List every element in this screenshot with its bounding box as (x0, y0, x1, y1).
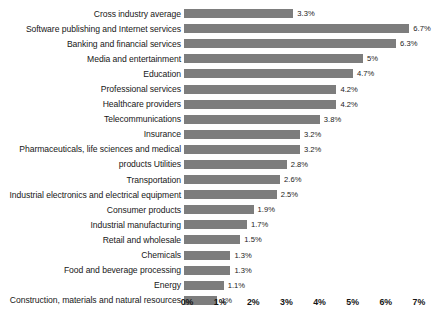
category-label: Software publishing and Internet service… (0, 24, 184, 34)
bar-value-label: 4.2% (340, 85, 357, 94)
chart-row: Retail and wholesale1.5% (0, 232, 445, 247)
category-label: Healthcare providers (0, 99, 184, 109)
bar-track: 1.3% (184, 263, 445, 278)
x-axis-tick-label: 1% (214, 296, 227, 308)
category-label: Pharmaceuticals, life sciences and medic… (0, 144, 184, 154)
bar (184, 205, 254, 214)
chart-row: Cross industry average3.3% (0, 6, 445, 21)
bar-track: 3.2% (184, 142, 445, 157)
bar-value-label: 1.3% (234, 251, 251, 260)
bar (184, 266, 230, 275)
category-label: Education (0, 69, 184, 79)
chart-row: Industrial manufacturing1.7% (0, 217, 445, 232)
bar-track: 4.2% (184, 97, 445, 112)
bar (184, 100, 336, 109)
bar-track: 1.3% (184, 248, 445, 263)
bar (184, 251, 230, 260)
bar-value-label: 6.3% (400, 39, 417, 48)
x-axis-tick-label: 4% (313, 296, 326, 308)
x-axis: 0%1%2%3%4%5%6%7% (0, 296, 445, 312)
bar-value-label: 4.2% (340, 100, 357, 109)
bar (184, 24, 409, 33)
chart-row: Food and beverage processing1.3% (0, 263, 445, 278)
category-label: Telecommunications (0, 114, 184, 124)
bar-value-label: 3.2% (304, 130, 321, 139)
bar-track: 2.8% (184, 157, 445, 172)
category-label: Media and entertainment (0, 54, 184, 64)
x-axis-tick-label: 2% (247, 296, 260, 308)
bar-track: 1.7% (184, 217, 445, 232)
bar (184, 145, 300, 154)
category-label: Banking and financial services (0, 39, 184, 49)
bar-value-label: 2.6% (284, 175, 301, 184)
chart-row: Education4.7% (0, 66, 445, 81)
category-label: Insurance (0, 129, 184, 139)
chart-row: Media and entertainment5% (0, 51, 445, 66)
bar-track: 6.3% (184, 36, 445, 51)
x-axis-tick-label: 5% (346, 296, 359, 308)
bar (184, 160, 287, 169)
bar (184, 115, 320, 124)
bar-track: 6.7% (184, 21, 445, 36)
bar-value-label: 1.7% (251, 220, 268, 229)
bar-track: 3.3% (184, 6, 445, 21)
bar-track: 4.7% (184, 66, 445, 81)
bar-value-label: 1.9% (258, 205, 275, 214)
bar (184, 130, 300, 139)
chart-row: Pharmaceuticals, life sciences and medic… (0, 142, 445, 157)
bar-track: 5% (184, 51, 445, 66)
category-label: Energy (0, 280, 184, 290)
chart-row: Software publishing and Internet service… (0, 21, 445, 36)
bar-track: 2.6% (184, 172, 445, 187)
bar (184, 281, 224, 290)
chart-row: Telecommunications3.8% (0, 112, 445, 127)
bar-value-label: 1.1% (228, 281, 245, 290)
bar-value-label: 4.7% (357, 69, 374, 78)
bar (184, 9, 293, 18)
x-axis-tick-label: 3% (280, 296, 293, 308)
bar-track: 3.8% (184, 112, 445, 127)
category-label: Consumer products (0, 205, 184, 215)
chart-row: Transportation2.6% (0, 172, 445, 187)
category-label: Industrial manufacturing (0, 220, 184, 230)
bar-value-label: 3.3% (297, 9, 314, 18)
category-label: Chemicals (0, 250, 184, 260)
bar-value-label: 6.7% (413, 24, 430, 33)
bar-value-label: 3.2% (304, 145, 321, 154)
chart-row: Consumer products1.9% (0, 202, 445, 217)
category-label: Retail and wholesale (0, 235, 184, 245)
bar-value-label: 3.8% (324, 115, 341, 124)
bar-value-label: 1.3% (234, 266, 251, 275)
chart-row: Healthcare providers4.2% (0, 97, 445, 112)
chart-plot-area: Cross industry average3.3%Software publi… (0, 6, 445, 308)
bar-track: 1.1% (184, 278, 445, 293)
x-axis-tick-label: 7% (413, 296, 426, 308)
bar-value-label: 1.5% (244, 235, 261, 244)
category-label: Cross industry average (0, 9, 184, 19)
bar (184, 69, 353, 78)
chart-row: Energy1.1% (0, 278, 445, 293)
chart-row: products Utilities2.8% (0, 157, 445, 172)
bar-value-label: 2.8% (291, 160, 308, 169)
category-label: Food and beverage processing (0, 265, 184, 275)
bar (184, 175, 280, 184)
category-label: Transportation (0, 175, 184, 185)
bar (184, 39, 396, 48)
category-label: Professional services (0, 84, 184, 94)
chart-row: Professional services4.2% (0, 81, 445, 96)
chart-row: Chemicals1.3% (0, 248, 445, 263)
category-label: Industrial electronics and electrical eq… (0, 190, 184, 200)
bar-track: 3.2% (184, 127, 445, 142)
bar-chart: Cross industry average3.3%Software publi… (0, 0, 445, 322)
bar (184, 54, 363, 63)
bar (184, 85, 336, 94)
category-label: products Utilities (0, 159, 184, 169)
bar (184, 235, 240, 244)
bar (184, 220, 247, 229)
bar-value-label: 2.5% (281, 190, 298, 199)
bar-value-label: 5% (367, 54, 378, 63)
chart-row: Insurance3.2% (0, 127, 445, 142)
x-axis-tick-label: 6% (379, 296, 392, 308)
bar-track: 1.9% (184, 202, 445, 217)
bar-track: 1.5% (184, 232, 445, 247)
